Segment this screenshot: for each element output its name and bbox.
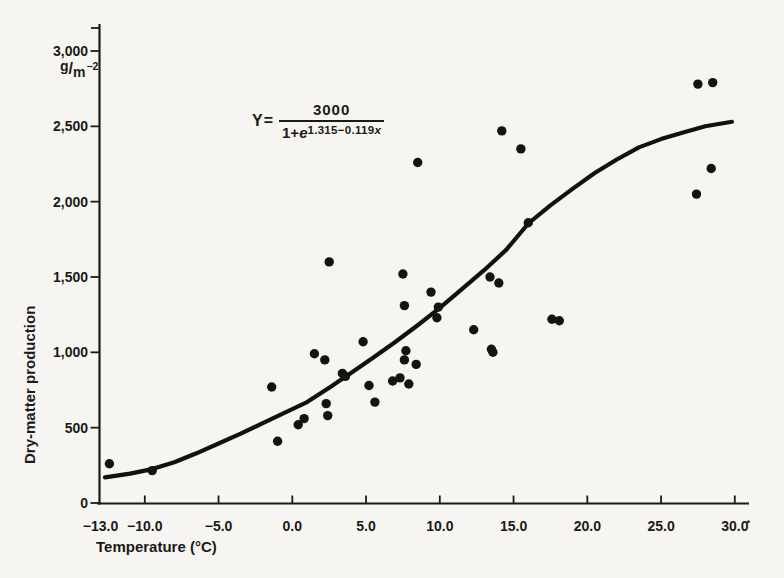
y-tick-label: 3,000: [53, 43, 88, 59]
data-point: [395, 373, 404, 382]
x-tick-label: 20.0: [574, 518, 601, 534]
stray-period: .: [746, 508, 751, 528]
equation-y: Y: [252, 112, 264, 129]
y-tick-label: 2,500: [53, 118, 88, 134]
equation-numerator: 3000: [287, 101, 376, 120]
y-tick-label: 500: [65, 420, 89, 436]
equation: Y= 3000 1+e1.315−0.119x: [252, 101, 384, 141]
equation-equals: =: [264, 112, 274, 129]
equation-exponent: 1.315−0.119x: [307, 124, 381, 136]
equation-den-prefix: 1+: [282, 124, 299, 141]
x-tick-label: 5.0: [356, 518, 376, 534]
x-tick-label: 10.0: [426, 518, 453, 534]
y-tick-label: 2,000: [53, 194, 88, 210]
chart-svg: 05001,0001,5002,0002,5003,000−13.0−10.0−…: [0, 0, 784, 578]
data-point: [325, 257, 334, 266]
data-point: [413, 158, 422, 167]
equation-denominator: 1+e1.315−0.119x: [279, 120, 384, 141]
equation-lhs: Y=: [252, 112, 274, 130]
data-point: [148, 466, 157, 475]
x-tick-label: 25.0: [647, 518, 674, 534]
data-point: [693, 79, 702, 88]
unit-exponent: −2: [86, 60, 98, 72]
data-point: [432, 313, 441, 322]
data-point: [524, 218, 533, 227]
data-point: [267, 382, 276, 391]
x-tick-label: −13.0: [83, 518, 119, 534]
data-point: [404, 379, 413, 388]
y-tick-label: 0: [80, 495, 88, 511]
data-point: [322, 399, 331, 408]
figure-page: 05001,0001,5002,0002,5003,000−13.0−10.0−…: [0, 0, 784, 578]
y-tick-label: 1,500: [53, 269, 88, 285]
data-point: [299, 414, 308, 423]
data-point: [320, 355, 329, 364]
y-tick-label: 1,000: [53, 344, 88, 360]
data-point: [555, 316, 564, 325]
unit-g: g: [60, 58, 69, 74]
data-point: [708, 78, 717, 87]
data-point: [310, 349, 319, 358]
data-point: [370, 397, 379, 406]
x-tick-label: −10.0: [127, 518, 163, 534]
data-point: [341, 372, 350, 381]
y-axis-unit: g/m−2: [60, 60, 100, 78]
data-point: [707, 164, 716, 173]
x-tick-label: 15.0: [500, 518, 527, 534]
data-point: [412, 360, 421, 369]
x-tick-label: 0.0: [283, 518, 303, 534]
data-point: [364, 381, 373, 390]
fit-curve: [105, 122, 732, 478]
data-point: [401, 346, 410, 355]
data-point: [516, 144, 525, 153]
data-point: [469, 325, 478, 334]
y-axis-title: Dry-matter production: [21, 306, 38, 464]
data-point: [488, 348, 497, 357]
equation-exp-var: x: [374, 124, 381, 136]
data-point: [358, 337, 367, 346]
x-tick-label: 30.0: [721, 518, 748, 534]
data-point: [485, 272, 494, 281]
data-point: [426, 287, 435, 296]
data-point: [400, 355, 409, 364]
x-axis-title: Temperature (°C): [96, 538, 217, 555]
x-tick-label: −5.0: [205, 518, 233, 534]
data-point: [497, 126, 506, 135]
data-point: [323, 411, 332, 420]
data-point: [692, 189, 701, 198]
data-point: [398, 269, 407, 278]
equation-exp-coeff: 1.315−0.119: [307, 124, 374, 136]
data-point: [400, 301, 409, 310]
data-point: [105, 459, 114, 468]
data-point: [494, 278, 503, 287]
unit-m: m: [73, 64, 85, 80]
data-point: [434, 302, 443, 311]
data-point: [273, 437, 282, 446]
equation-fraction: 3000 1+e1.315−0.119x: [279, 101, 384, 141]
